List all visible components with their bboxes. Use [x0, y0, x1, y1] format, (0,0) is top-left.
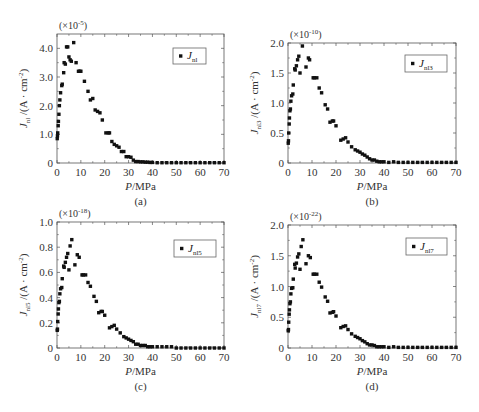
data-point	[421, 161, 424, 164]
data-point	[440, 346, 443, 349]
data-point	[334, 314, 337, 317]
data-point	[426, 346, 429, 349]
data-point	[56, 320, 59, 323]
y-tick-label: 0.5	[270, 311, 284, 323]
data-point	[189, 346, 192, 349]
data-point	[58, 300, 61, 303]
data-point	[213, 346, 216, 349]
data-point	[411, 346, 414, 349]
data-point	[387, 161, 390, 164]
data-point	[309, 256, 312, 259]
data-point	[324, 103, 327, 106]
data-point	[294, 68, 297, 71]
x-tick-label: 60	[427, 166, 439, 178]
data-point	[73, 263, 76, 266]
x-tick-label: 60	[427, 351, 439, 363]
data-point	[101, 310, 104, 313]
data-point	[430, 346, 433, 349]
data-point	[189, 161, 192, 164]
data-point	[301, 44, 304, 47]
data-point	[208, 346, 211, 349]
panel-d: 01020304050607000.51.01.52.0(×10-22)Jnl7…	[248, 210, 462, 393]
data-point	[315, 273, 318, 276]
data-point	[387, 346, 390, 349]
x-axis-label: P/MPa	[356, 180, 388, 192]
x-tick-label: 0	[54, 351, 60, 363]
y-tick-label: 0.8	[39, 241, 53, 253]
data-point	[64, 62, 67, 65]
data-point	[445, 161, 448, 164]
data-point	[95, 300, 98, 303]
data-point	[344, 324, 347, 327]
data-point	[287, 328, 290, 331]
x-tick-label: 40	[379, 166, 391, 178]
y-multiplier-label: (×10-18)	[59, 207, 91, 220]
data-point	[402, 346, 405, 349]
data-point	[213, 161, 216, 164]
y-axis-label: Jnl3 /(A · cm-2)	[248, 71, 263, 134]
x-tick-label: 60	[195, 351, 207, 363]
data-point	[59, 91, 62, 94]
data-point	[298, 71, 301, 74]
legend: Jnl3	[405, 55, 447, 72]
y-tick-label: 0	[48, 157, 54, 169]
x-tick-label: 70	[219, 351, 231, 363]
y-multiplier-label: (×10-5)	[59, 19, 87, 32]
data-point	[292, 83, 295, 86]
y-tick-label: 0	[48, 342, 54, 354]
data-point	[57, 113, 60, 116]
data-point	[83, 80, 86, 83]
data-point	[297, 252, 300, 255]
data-point	[288, 116, 291, 119]
x-tick-label: 0	[285, 166, 291, 178]
data-point	[295, 261, 298, 264]
x-tick-label: 50	[171, 351, 183, 363]
data-point	[445, 346, 448, 349]
y-tick-label: 2.0	[39, 100, 53, 112]
data-point	[156, 345, 159, 348]
data-point	[332, 119, 335, 122]
data-point	[198, 346, 201, 349]
data-point	[350, 145, 353, 148]
x-tick-label: 50	[403, 166, 415, 178]
data-point	[179, 346, 182, 349]
x-tick-label: 70	[219, 166, 231, 178]
data-point	[70, 238, 73, 241]
data-point	[304, 262, 307, 265]
legend-marker-icon	[179, 54, 182, 57]
data-point	[382, 345, 385, 348]
y-tick-label: 1.0	[39, 216, 53, 228]
data-point	[326, 107, 329, 110]
data-point	[64, 261, 67, 264]
data-point	[346, 328, 349, 331]
x-tick-label: 50	[171, 166, 183, 178]
data-point	[288, 312, 291, 315]
y-multiplier-label: (×10-10)	[290, 28, 322, 41]
data-point	[115, 327, 118, 330]
x-tick-label: 30	[355, 166, 367, 178]
data-point	[454, 346, 457, 349]
data-point	[411, 161, 414, 164]
data-point	[291, 92, 294, 95]
data-point	[58, 292, 61, 295]
data-point	[392, 345, 395, 348]
data-point	[62, 266, 65, 269]
data-point	[435, 346, 438, 349]
data-point	[101, 118, 104, 121]
data-point	[65, 256, 68, 259]
data-point	[416, 161, 419, 164]
y-tick-label: 2.0	[270, 219, 284, 231]
data-point	[56, 312, 59, 315]
panel-b: 01020304050607000.51.01.52.0(×10-10)Jnl3…	[248, 28, 462, 208]
data-point	[67, 268, 70, 271]
legend-marker-icon	[411, 62, 414, 65]
y-tick-label: 3.0	[39, 71, 53, 83]
panel-label: (b)	[366, 195, 379, 208]
y-tick-label: 1.0	[39, 128, 53, 140]
data-point	[298, 268, 301, 271]
data-point	[296, 58, 299, 61]
data-point	[175, 346, 178, 349]
panel-label: (a)	[134, 195, 147, 208]
y-axis-label: Jnl /(A · cm-2)	[17, 69, 32, 129]
data-point	[287, 131, 290, 134]
